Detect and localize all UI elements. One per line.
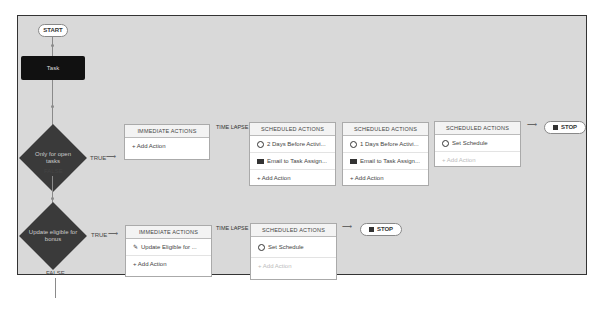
immediate-actions-panel: IMMEDIATE ACTIONS + Add Action [124, 124, 210, 160]
set-schedule-row[interactable]: Set Schedule [435, 135, 520, 152]
panel-title: IMMEDIATE ACTIONS [125, 125, 209, 138]
connector-dot [51, 105, 54, 108]
immediate-actions-panel: IMMEDIATE ACTIONS ✎Update Eligible for .… [125, 225, 212, 277]
add-action-button[interactable]: + Add Action [126, 256, 211, 272]
task-node[interactable]: Task [21, 56, 85, 80]
start-node: START [38, 24, 68, 37]
set-schedule-row[interactable]: Set Schedule [251, 237, 336, 258]
add-action-button: + Add Action [251, 258, 336, 274]
stop-icon [369, 227, 374, 232]
add-action-button[interactable]: + Add Action [343, 170, 428, 186]
criteria-label: Update eligible for bonus [28, 229, 78, 243]
field-update-row[interactable]: ✎Update Eligible for ... [126, 239, 211, 256]
add-action-button[interactable]: + Add Action [250, 170, 335, 186]
pencil-icon: ✎ [133, 244, 138, 250]
panel-title: SCHEDULED ACTIONS [343, 123, 428, 136]
arrow-icon: ⟶ [342, 223, 352, 231]
schedule-row[interactable]: 2 Days Before Activi... [250, 136, 335, 153]
stop-icon [553, 125, 558, 130]
stop-node: STOP [544, 121, 586, 134]
email-icon [350, 159, 357, 164]
add-action-button[interactable]: + Add Action [125, 138, 209, 154]
connector [55, 278, 56, 298]
criteria-label: Only for open tasks [28, 151, 78, 165]
clock-icon [257, 141, 264, 148]
email-action-row[interactable]: Email to Task Assign... [250, 153, 335, 170]
add-action-button: + Add Action [435, 152, 520, 168]
arrow-icon: ⟶ [106, 153, 116, 161]
arrow-icon: ⟶ [108, 230, 118, 238]
true-label: TRUE [90, 155, 106, 161]
clock-icon [442, 140, 449, 147]
scheduled-actions-panel: SCHEDULED ACTIONS Set Schedule + Add Act… [434, 121, 521, 167]
arrow-icon: → [232, 122, 239, 129]
connector-dot [51, 197, 54, 200]
clock-icon [350, 141, 357, 148]
email-icon [257, 159, 264, 164]
scheduled-actions-panel: SCHEDULED ACTIONS 1 Days Before Activi..… [342, 122, 429, 186]
panel-title: SCHEDULED ACTIONS [251, 224, 336, 237]
connector-dot [51, 44, 54, 47]
email-action-row[interactable]: Email to Task Assign... [343, 153, 428, 170]
schedule-row[interactable]: 1 Days Before Activi... [343, 136, 428, 153]
panel-title: SCHEDULED ACTIONS [250, 123, 335, 136]
arrow-icon: → [232, 223, 239, 230]
panel-title: IMMEDIATE ACTIONS [126, 226, 211, 239]
scheduled-actions-panel: SCHEDULED ACTIONS 2 Days Before Activi..… [249, 122, 336, 186]
connector [52, 80, 53, 128]
arrow-icon: ⟶ [527, 121, 537, 129]
scheduled-actions-panel: SCHEDULED ACTIONS Set Schedule + Add Act… [250, 223, 337, 280]
panel-title: SCHEDULED ACTIONS [435, 122, 520, 135]
stop-node: STOP [360, 223, 402, 236]
clock-icon [258, 244, 265, 251]
false-label: FALSE [46, 270, 65, 276]
false-label: FALSE [44, 168, 63, 174]
true-label: TRUE [91, 232, 107, 238]
